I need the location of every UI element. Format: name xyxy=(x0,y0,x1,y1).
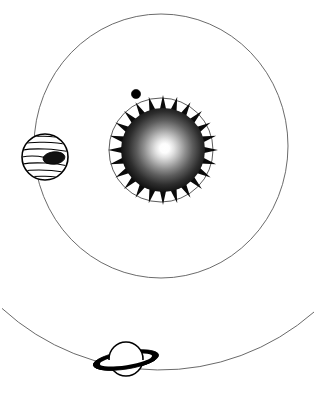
orbit-group xyxy=(2,14,314,370)
sun xyxy=(108,95,218,205)
saturn-body xyxy=(109,342,143,376)
inner-planet xyxy=(131,89,140,98)
saturn xyxy=(92,342,160,376)
solar-system-canvas xyxy=(0,0,317,395)
sun-core xyxy=(121,108,205,192)
orbit-path-outer xyxy=(2,308,314,370)
solar-system-figure xyxy=(0,0,317,395)
jupiter xyxy=(20,134,70,180)
